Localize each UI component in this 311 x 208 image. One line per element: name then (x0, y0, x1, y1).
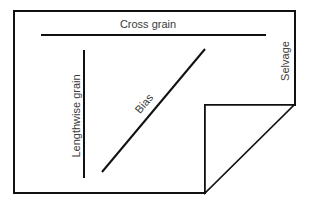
folded-corner (205, 105, 294, 193)
selvage-label: Selvage (279, 41, 291, 81)
bias-line (102, 49, 205, 172)
cross-grain-label: Cross grain (120, 18, 176, 30)
lengthwise-grain-label: Lengthwise grain (70, 74, 82, 157)
fabric-outline (14, 11, 295, 193)
fabric-grain-diagram: Cross grain Lengthwise grain Bias Selvag… (0, 0, 311, 208)
